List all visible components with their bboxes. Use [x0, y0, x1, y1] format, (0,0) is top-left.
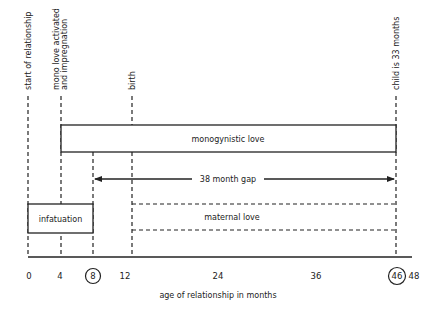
bar-maternal-love: maternal love [132, 204, 396, 230]
bar-maternal-label: maternal love [204, 213, 259, 222]
gap-arrow: 38 month gap [95, 175, 394, 184]
bar-infatuation-label: infatuation [39, 215, 82, 224]
gap-arrow-label: 38 month gap [200, 175, 256, 184]
tick-46: 46 [392, 271, 403, 281]
milestone-label-start: start of relationship [24, 12, 33, 90]
x-axis-title: age of relationship in months [159, 291, 276, 300]
tick-24: 24 [213, 271, 224, 281]
tick-4: 4 [57, 271, 62, 281]
tick-0: 0 [26, 271, 31, 281]
x-axis-ticks: 0 4 8 12 24 36 46 48 [26, 268, 419, 285]
bar-monogynistic-love: monogynistic love [61, 125, 396, 152]
milestone-label-birth: birth [128, 71, 137, 90]
tick-12: 12 [120, 271, 131, 281]
tick-8: 8 [90, 271, 95, 281]
relationship-timeline-diagram: start of relationship mono love activate… [0, 0, 438, 310]
milestone-label-child: child is 33 months [392, 17, 401, 90]
bar-monogynistic-label: monogynistic love [192, 135, 265, 144]
bar-infatuation: infatuation [28, 204, 93, 233]
tick-36: 36 [311, 271, 322, 281]
milestone-label-mono-line2: and impregnation [60, 19, 69, 90]
tick-48: 48 [409, 271, 420, 281]
